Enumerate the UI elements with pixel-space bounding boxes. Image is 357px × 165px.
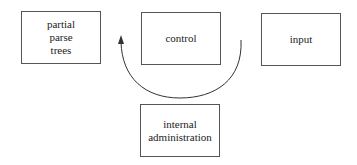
partial-parse-trees-box: partial parse trees <box>21 11 101 64</box>
internal-administration-box: internal administration <box>140 104 220 157</box>
internal-administration-label: internal administration <box>148 118 212 144</box>
partial-parse-trees-label: partial parse trees <box>47 18 75 57</box>
control-box: control <box>141 12 221 65</box>
input-label: input <box>290 33 313 46</box>
control-label: control <box>165 32 196 45</box>
input-box: input <box>261 13 341 66</box>
